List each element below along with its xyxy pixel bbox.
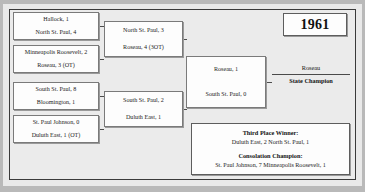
team-slot: North St. Paul, 3: [105, 27, 182, 33]
team-slot: South St. Paul, 0: [187, 91, 265, 97]
team-slot: St. Paul Johnson, 0: [14, 119, 98, 125]
team-slot: South St. Paul, 2: [105, 97, 182, 103]
results-panel: Third Place Winner: Duluth East, 2 North…: [191, 123, 350, 175]
consolation-title: Consolation Champion:: [192, 152, 349, 161]
connector-r2-2: [183, 109, 187, 110]
team-slot: Duluth East, 1: [105, 114, 182, 120]
match-box-quarterfinal-3[interactable]: South St. Paul, 8 Bloomington, 1: [13, 82, 99, 110]
match-box-semifinal-2[interactable]: South St. Paul, 2 Duluth East, 1: [104, 91, 183, 127]
year-plaque: 1961: [283, 13, 347, 36]
match-box-quarterfinal-1[interactable]: Hallock, 1 North St. Paul, 4: [13, 12, 99, 40]
match-box-final[interactable]: Roseau, 1 South St. Paul, 0: [186, 56, 266, 108]
team-slot: Roseau, 1: [187, 66, 265, 72]
consolation-group: Consolation Champion: St. Paul Johnson, …: [192, 152, 349, 169]
champion-name: Roseau: [302, 65, 321, 74]
state-champion-block: Roseau State Champion: [272, 60, 350, 89]
connector-r1-2: [99, 59, 104, 60]
year-label: 1961: [300, 18, 329, 32]
team-slot: Duluth East, 1 (OT): [14, 132, 98, 138]
team-slot: Hallock, 1: [14, 16, 98, 22]
team-slot: Minneapolis Roosevelt, 2: [14, 49, 98, 55]
consolation-line: St. Paul Johnson, 7 Minneapolis Roosevel…: [192, 161, 349, 169]
third-place-group: Third Place Winner: Duluth East, 2 North…: [192, 129, 349, 146]
team-slot: South St. Paul, 8: [14, 86, 98, 92]
connector-r2-1: [183, 39, 187, 40]
team-slot: Bloomington, 1: [14, 99, 98, 105]
team-slot: North St. Paul, 4: [14, 29, 98, 35]
match-box-semifinal-1[interactable]: North St. Paul, 3 Roseau, 4 (3OT): [104, 21, 183, 57]
tournament-bracket: Hallock, 1 North St. Paul, 4 Minneapolis…: [0, 0, 365, 192]
team-slot: Roseau, 3 (OT): [14, 62, 98, 68]
third-place-line: Duluth East, 2 North St. Paul, 1: [192, 138, 349, 146]
match-box-quarterfinal-4[interactable]: St. Paul Johnson, 0 Duluth East, 1 (OT): [13, 115, 99, 143]
connector-r1-4: [99, 129, 104, 130]
team-slot: Roseau, 4 (3OT): [105, 44, 182, 50]
third-place-title: Third Place Winner:: [192, 129, 349, 138]
match-box-quarterfinal-2[interactable]: Minneapolis Roosevelt, 2 Roseau, 3 (OT): [13, 45, 99, 73]
champion-title: State Champion: [289, 75, 333, 84]
